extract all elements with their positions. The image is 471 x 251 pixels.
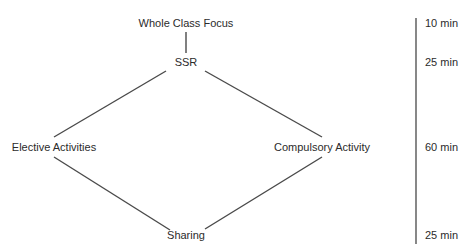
class-schedule-diagram: Whole Class Focus SSR Elective Activitie… xyxy=(0,0,471,251)
duration-sharing: 25 min xyxy=(425,229,458,242)
edge-ssr-to-compulsory xyxy=(205,71,322,137)
edge-ssr-to-elective xyxy=(54,71,166,137)
edge-elective-to-sharing xyxy=(54,157,170,230)
duration-ssr: 25 min xyxy=(425,56,458,69)
node-whole-class-focus: Whole Class Focus xyxy=(139,17,234,30)
diagram-connectors xyxy=(0,0,471,251)
node-elective-activities: Elective Activities xyxy=(12,141,96,154)
node-ssr: SSR xyxy=(175,56,198,69)
node-compulsory-activity: Compulsory Activity xyxy=(274,141,370,154)
duration-whole-class-focus: 10 min xyxy=(425,17,458,30)
edge-compulsory-to-sharing xyxy=(205,157,322,229)
duration-activities: 60 min xyxy=(425,141,458,154)
node-sharing: Sharing xyxy=(167,229,205,242)
